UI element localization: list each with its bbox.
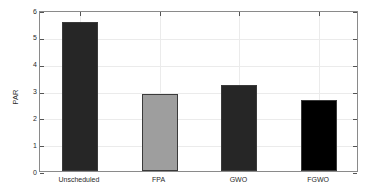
- y-axis-label: PAR: [12, 90, 20, 105]
- y-tick-mark: [40, 12, 44, 13]
- x-tick-mark: [319, 12, 320, 16]
- y-tick-mark: [40, 66, 44, 67]
- y-tick-label: 2: [30, 115, 37, 122]
- y-tick-mark: [353, 173, 357, 174]
- bar-gwo[interactable]: [221, 85, 257, 171]
- x-tick-label: FPA: [152, 176, 165, 183]
- plot-area: [39, 11, 358, 172]
- y-tick-label: 6: [30, 8, 37, 15]
- y-tick-label: 5: [30, 34, 37, 41]
- y-tick-label: 0: [30, 169, 37, 176]
- y-tick-mark: [353, 119, 357, 120]
- x-tick-label: FGWO: [307, 176, 329, 183]
- y-tick-label: 4: [30, 61, 37, 68]
- bar-fpa[interactable]: [142, 94, 178, 171]
- x-tick-mark: [80, 12, 81, 16]
- x-tick-mark: [160, 12, 161, 16]
- y-tick-label: 1: [30, 142, 37, 149]
- y-tick-label: 3: [30, 88, 37, 95]
- y-tick-mark: [353, 12, 357, 13]
- y-tick-mark: [40, 119, 44, 120]
- bar-unscheduled[interactable]: [62, 22, 98, 171]
- x-tick-mark: [239, 12, 240, 16]
- figure-canvas: PAR 0123456UnscheduledFPAGWOFGWO: [0, 0, 377, 194]
- x-tick-label: GWO: [230, 176, 248, 183]
- y-tick-mark: [40, 146, 44, 147]
- y-tick-mark: [353, 39, 357, 40]
- y-tick-mark: [40, 173, 44, 174]
- y-tick-mark: [353, 66, 357, 67]
- y-tick-mark: [40, 93, 44, 94]
- x-tick-label: Unscheduled: [58, 176, 99, 183]
- bar-fgwo[interactable]: [301, 100, 337, 171]
- y-tick-mark: [353, 93, 357, 94]
- y-tick-mark: [353, 146, 357, 147]
- y-tick-mark: [40, 39, 44, 40]
